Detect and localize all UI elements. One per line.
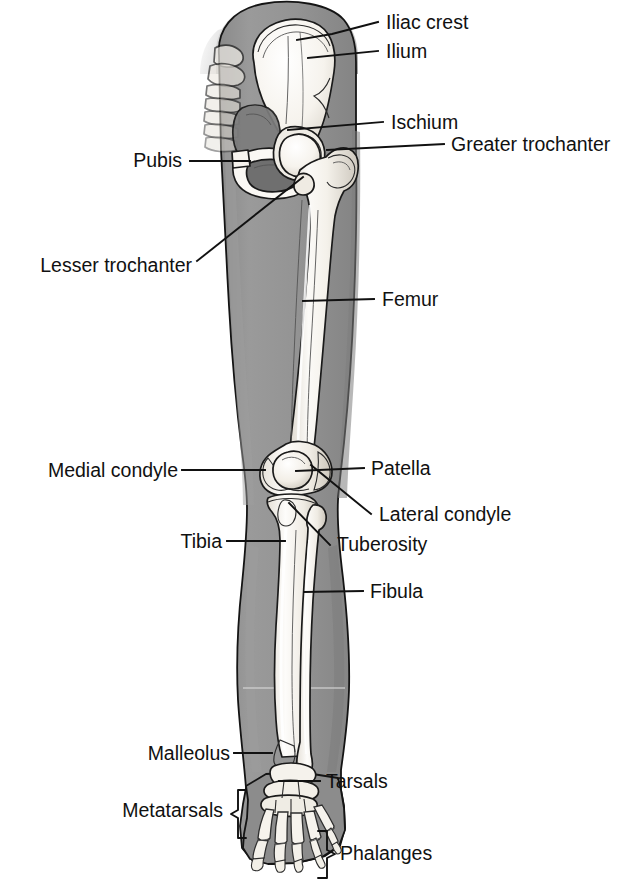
label-fibula: Fibula xyxy=(370,580,423,602)
label-ischium: Ischium xyxy=(391,111,458,133)
anatomy-figure: Iliac crest Ilium Ischium Greater trocha… xyxy=(0,0,635,883)
label-femur: Femur xyxy=(382,288,439,310)
label-lateral-condyle: Lateral condyle xyxy=(379,503,511,525)
label-phalanges: Phalanges xyxy=(340,842,432,864)
label-tarsals: Tarsals xyxy=(326,770,388,792)
label-patella: Patella xyxy=(371,457,431,479)
label-pubis: Pubis xyxy=(133,149,182,171)
leader-fibula xyxy=(304,591,363,592)
label-metatarsals: Metatarsals xyxy=(122,799,223,821)
label-malleolus: Malleolus xyxy=(148,742,231,764)
label-tibia: Tibia xyxy=(180,530,222,552)
label-iliac-crest: Iliac crest xyxy=(386,11,469,33)
label-greater-trochanter: Greater trochanter xyxy=(451,133,611,155)
label-medial-condyle: Medial condyle xyxy=(48,459,178,481)
label-lesser-trochanter: Lesser trochanter xyxy=(40,254,192,276)
anatomy-svg: Iliac crest Ilium Ischium Greater trocha… xyxy=(0,0,635,883)
label-ilium: Ilium xyxy=(386,40,427,62)
label-tuberosity: Tuberosity xyxy=(337,533,428,555)
